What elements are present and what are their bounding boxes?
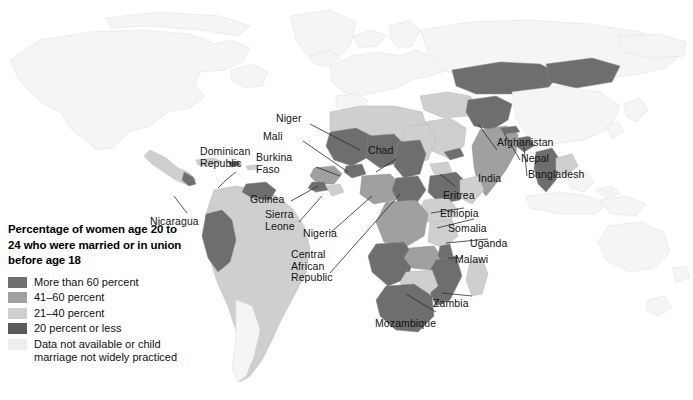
map-label-central-african-republic: Central African Republic: [291, 249, 333, 284]
legend-label-21-40: 21–40 percent: [34, 307, 104, 320]
legend-swatch-20-or-less: [8, 323, 27, 334]
map-label-mali: Mali: [263, 131, 283, 143]
legend-label-no-data: Data not available or child marriage not…: [34, 338, 186, 364]
legend-swatch-21-40: [8, 308, 27, 319]
legend-item-21-40: 21–40 percent: [8, 307, 186, 320]
legend-item-no-data: Data not available or child marriage not…: [8, 338, 186, 364]
map-label-eritrea: Eritrea: [443, 190, 475, 202]
map-label-dominican-republic: Dominican Republic: [200, 146, 251, 169]
legend: Percentage of women age 20 to 24 who wer…: [8, 222, 186, 366]
map-label-chad: Chad: [368, 145, 394, 157]
legend-item-more-than-60: More than 60 percent: [8, 276, 186, 289]
map-label-ethiopia: Ethiopia: [440, 208, 479, 220]
map-label-zambia: Zambia: [433, 298, 469, 310]
map-label-india: India: [478, 173, 501, 185]
legend-item-41-60: 41–60 percent: [8, 291, 186, 304]
map-label-uganda: Uganda: [470, 238, 507, 250]
legend-swatch-more-than-60: [8, 277, 27, 288]
map-label-mozambique: Mozambique: [375, 318, 436, 330]
map-label-nepal: Nepal: [521, 153, 549, 165]
map-label-nigeria: Nigeria: [303, 228, 337, 240]
legend-item-20-or-less: 20 percent or less: [8, 322, 186, 335]
legend-swatch-41-60: [8, 292, 27, 303]
map-label-malawi: Malawi: [455, 254, 488, 266]
map-label-somalia: Somalia: [448, 223, 487, 235]
legend-label-20-or-less: 20 percent or less: [34, 322, 121, 335]
map-label-guinea: Guinea: [250, 194, 284, 206]
map-label-sierra-leone: Sierra Leone: [265, 209, 295, 232]
map-label-bangladesh: Bangladesh: [528, 169, 584, 181]
legend-title: Percentage of women age 20 to 24 who wer…: [8, 222, 186, 269]
map-label-niger: Niger: [276, 113, 302, 125]
legend-swatch-no-data: [8, 339, 27, 350]
map-label-burkina-faso: Burkina Faso: [256, 152, 292, 175]
legend-label-more-than-60: More than 60 percent: [34, 276, 139, 289]
map-label-afghanistan: Afghanistan: [497, 137, 554, 149]
legend-label-41-60: 41–60 percent: [34, 291, 104, 304]
map-figure: .nd{fill:#eceeee;stroke:#c3c6c8;stroke-w…: [0, 0, 693, 400]
